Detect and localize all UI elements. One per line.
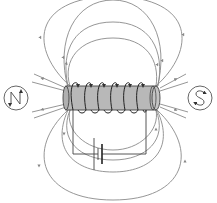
field-lines-top [40,0,184,88]
field-lines-bottom [39,110,185,200]
compass-north [4,86,28,110]
circuit-wire [73,110,146,170]
solenoid-diagram: N S [0,0,217,203]
compass-south [188,86,212,110]
battery [98,144,102,164]
